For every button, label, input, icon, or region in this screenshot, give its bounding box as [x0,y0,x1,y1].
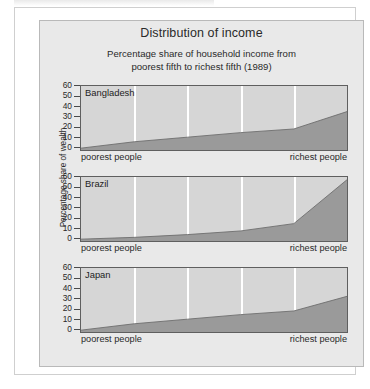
y-tick-value: 20 [57,122,72,130]
y-tick-value: 30 [57,112,72,120]
income-distribution-figure: Distribution of income Percentage share … [39,20,364,367]
figure-subtitle-line-2: poorest fifth to richest fifth (1989) [131,61,271,72]
y-tick-value: 50 [57,91,72,99]
y-tick-value: 30 [57,294,72,302]
chart-panel-brazil: 6050403020100 Brazil poorest people rich… [80,176,348,255]
y-tick-value: 40 [57,284,72,292]
y-tick-value: 20 [57,213,72,221]
y-axis-ticks-japan: 6050403020100 [50,263,80,337]
plot-area-bangladesh: Bangladesh [80,85,348,151]
screenshot-root: Distribution of income Percentage share … [0,0,370,389]
x-label-poorest: poorest people [81,334,142,344]
y-tick-50: 50 [57,182,80,190]
y-tick-value: 0 [57,325,72,333]
y-tick-10: 10 [57,224,80,232]
y-tick-50: 50 [57,91,80,99]
y-tick-value: 50 [57,182,72,190]
y-tick-value: 10 [57,224,72,232]
y-tick-40: 40 [57,193,80,201]
y-tick-value: 60 [57,263,72,271]
series-label-japan: Japan [85,269,111,280]
area-series-japan [81,268,347,332]
x-label-richest: richest people [290,243,347,253]
y-tick-50: 50 [57,273,80,281]
chart-panel-japan: 6050403020100 Japan poorest people riche… [80,267,348,346]
plot-area-brazil: Brazil [80,176,348,242]
x-label-poorest: poorest people [81,243,142,253]
series-label-brazil: Brazil [85,178,108,189]
y-tick-value: 0 [57,143,72,151]
y-tick-value: 40 [57,102,72,110]
y-tick-20: 20 [57,304,80,312]
y-tick-value: 20 [57,304,72,312]
area-series-brazil [81,177,347,241]
x-label-poorest: poorest people [81,152,142,162]
x-axis-labels-bangladesh: poorest people richest people [80,151,348,164]
y-tick-value: 10 [57,133,72,141]
y-tick-40: 40 [57,284,80,292]
y-tick-value: 0 [57,234,72,242]
y-tick-value: 50 [57,273,72,281]
chart-panel-bangladesh: 6050403020100 Bangladesh poorest people … [80,85,348,164]
y-tick-60: 60 [57,172,80,180]
cropped-text-sliver [14,0,214,6]
x-axis-labels-brazil: poorest people richest people [80,242,348,255]
figure-title: Distribution of income [40,26,363,40]
y-tick-10: 10 [57,315,80,323]
y-tick-60: 60 [57,263,80,271]
y-tick-20: 20 [57,213,80,221]
figure-subtitle-line-1: Percentage share of household income fro… [107,48,296,59]
y-tick-0: 0 [57,234,80,242]
y-axis-ticks-brazil: 6050403020100 [50,172,80,246]
y-tick-value: 60 [57,81,72,89]
y-tick-20: 20 [57,122,80,130]
x-label-richest: richest people [290,152,347,162]
y-tick-value: 30 [57,203,72,211]
y-tick-value: 60 [57,172,72,180]
y-tick-0: 0 [57,143,80,151]
y-tick-30: 30 [57,203,80,211]
x-label-richest: richest people [290,334,347,344]
figure-subtitle: Percentage share of household income fro… [40,47,363,73]
y-tick-30: 30 [57,112,80,120]
figure-outer-frame: Distribution of income Percentage share … [14,7,356,375]
y-tick-60: 60 [57,81,80,89]
y-tick-30: 30 [57,294,80,302]
y-tick-0: 0 [57,325,80,333]
y-axis-ticks-bangladesh: 6050403020100 [50,81,80,155]
y-tick-value: 10 [57,315,72,323]
series-label-bangladesh: Bangladesh [85,87,135,98]
plot-area-japan: Japan [80,267,348,333]
y-tick-40: 40 [57,102,80,110]
x-axis-labels-japan: poorest people richest people [80,333,348,346]
y-tick-value: 40 [57,193,72,201]
y-tick-10: 10 [57,133,80,141]
